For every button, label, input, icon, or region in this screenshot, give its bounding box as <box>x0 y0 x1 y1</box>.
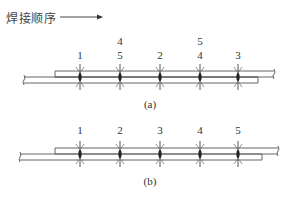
weld-label-b: 4 <box>197 125 203 136</box>
caption-a: (a) <box>144 99 156 110</box>
weld-label-a: 4 <box>197 50 203 61</box>
weld-label-b: 1 <box>77 125 83 136</box>
weld-label-a-upper: 4 <box>117 36 123 47</box>
weld-label-a-upper: 5 <box>197 36 203 47</box>
right-arrow-icon <box>60 15 103 20</box>
weld-label-a: 1 <box>77 50 83 61</box>
weld-label-a: 3 <box>235 50 241 61</box>
weld-label-b: 3 <box>157 125 163 136</box>
weld-label-a: 5 <box>117 50 123 61</box>
weld-label-b: 5 <box>235 125 241 136</box>
diagram-b-plates <box>19 146 279 162</box>
caption-b: (b) <box>144 176 157 187</box>
weld-label-b: 2 <box>117 125 123 136</box>
weld-label-a: 2 <box>157 50 163 61</box>
